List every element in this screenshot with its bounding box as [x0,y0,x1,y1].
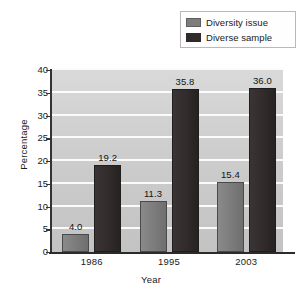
legend-swatch-icon-diversity-issue [186,18,201,27]
gridline [51,68,283,70]
y-axis-tick-mark [46,252,50,253]
x-axis-tick-label: 1995 [139,257,199,267]
legend-item-diversity-issue: Diversity issue [186,15,291,30]
y-axis-tick-mark [46,93,50,94]
y-axis-tick-mark [46,161,50,162]
x-axis-tick-label: 1986 [62,257,122,267]
bar [172,89,199,252]
bar-value-label: 15.4 [208,170,253,180]
y-axis-line [50,69,52,253]
bar-value-label: 36.0 [240,76,285,86]
x-axis-line [49,252,295,254]
y-axis-tick-label: 10 [4,202,48,212]
y-axis-tick-label: 35 [4,88,48,98]
bar [249,88,276,252]
y-axis-title: Percentage [18,105,29,185]
bar-value-label: 35.8 [163,77,208,87]
legend-item-diverse-sample: Diverse sample [186,30,291,45]
bar-value-label: 11.3 [131,189,176,199]
bar [94,165,121,252]
bar-chart: Diversity issue Diverse sample 4.019.211… [0,0,302,292]
x-axis-tick-label: 2003 [216,257,276,267]
y-axis-tick-mark [46,70,50,71]
bar-value-label: 19.2 [85,153,130,163]
y-axis-tick-label: 5 [4,224,48,234]
bar [140,201,167,252]
x-axis-title: Year [0,274,302,285]
y-axis-tick-mark [46,207,50,208]
bar-value-label: 4.0 [53,222,98,232]
y-axis-tick-label: 0 [4,247,48,257]
y-axis-tick-mark [46,229,50,230]
legend-label-diversity-issue: Diversity issue [206,18,268,28]
bar [62,234,89,252]
legend-label-diverse-sample: Diverse sample [206,33,272,43]
chart-legend: Diversity issue Diverse sample [180,11,296,48]
y-axis-tick-mark [46,116,50,117]
y-axis-tick-mark [46,138,50,139]
legend-swatch-icon-diverse-sample [186,33,201,42]
bar [217,182,244,252]
y-axis-tick-mark [46,184,50,185]
y-axis-tick-label: 40 [4,65,48,75]
plot-area: 4.019.211.335.815.436.0 [51,70,283,252]
